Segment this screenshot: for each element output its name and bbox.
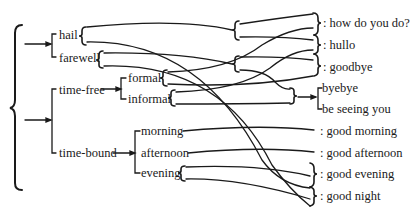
label-hullo: : hullo <box>323 38 355 52</box>
label-good-evening: : good evening <box>320 167 394 181</box>
label-byebye: byebye <box>322 81 358 95</box>
brace-close-informal <box>290 88 297 104</box>
bracket-time <box>52 89 56 153</box>
brace-good-evening <box>310 163 317 187</box>
brace-hullo <box>314 35 321 54</box>
label-good-night: : good night <box>320 189 380 203</box>
bracket-times <box>135 131 140 173</box>
line-mid-upper-1 <box>240 14 313 24</box>
line-afternoon <box>188 149 314 153</box>
line-morning <box>183 127 314 131</box>
line-farewell-1 <box>104 53 232 64</box>
line-formal-2 <box>168 76 313 85</box>
greeting-system-network: hail farewell time-free formal informal … <box>0 0 417 215</box>
label-hail: hail <box>59 28 78 42</box>
line-informal-2 <box>176 103 290 104</box>
label-time-free: time-free <box>59 83 105 97</box>
label-farewell: farewell <box>59 51 100 65</box>
line-formal-1 <box>168 28 313 72</box>
line-hail-1 <box>87 23 232 30</box>
label-formal: formal <box>128 71 161 85</box>
main-brace <box>10 25 22 190</box>
bracket-hail-farewell <box>52 34 56 57</box>
brace-hail <box>79 27 86 45</box>
bracket-formality <box>121 78 126 99</box>
brace-mid-upper <box>232 21 239 40</box>
label-afternoon: afternoon <box>141 146 189 160</box>
label-evening: evening <box>141 166 181 180</box>
brace-good-night <box>310 187 317 206</box>
line-mid-lower-1 <box>240 57 313 60</box>
label-informal: informal <box>128 92 171 106</box>
label-be-seeing-you: be seeing you <box>322 102 391 116</box>
line-evening-1 <box>186 166 310 176</box>
label-morning: morning <box>141 124 183 138</box>
brace-goodbye <box>314 54 321 76</box>
label-goodbye: : goodbye <box>323 60 373 74</box>
label-time-bound: time-bound <box>59 146 117 160</box>
brace-how-do-you-do <box>313 13 321 35</box>
label-good-afternoon: : good afternoon <box>320 146 403 160</box>
label-how-do-you-do: : how do you do? <box>323 16 410 30</box>
label-good-morning: : good morning <box>320 124 397 138</box>
